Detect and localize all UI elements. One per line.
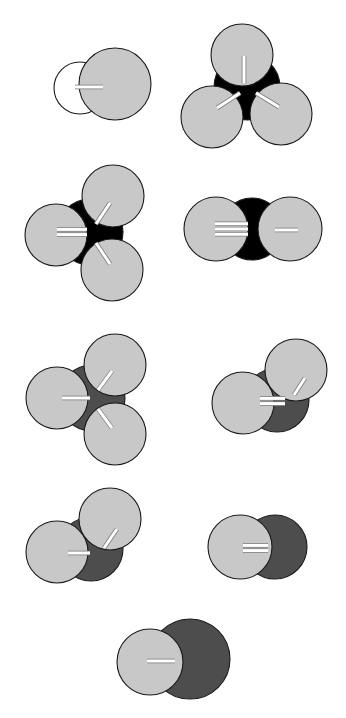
atom-lightgray-upper-right [82,165,144,227]
atom-lightgray-upper-right [84,334,146,396]
molecular-model-figure [0,0,346,718]
molecule-structure-4 [184,197,322,261]
atom-lightgray-lower-right [84,403,146,465]
molecule-structure-8 [208,515,307,579]
bond-triple-left [215,224,248,234]
atom-lightgray-lower-right [250,83,312,145]
atom-lightgray-right [79,48,151,120]
atom-lightgray-lower-right [81,239,143,301]
